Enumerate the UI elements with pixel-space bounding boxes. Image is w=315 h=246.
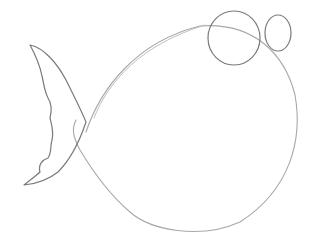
fish-sketch: [0, 0, 315, 246]
fish-body-outline-overlap: [94, 25, 205, 118]
sketch-canvas: Pencil sketch of a round fish: [0, 0, 315, 246]
tail-fin-outline: [24, 45, 86, 185]
eye-large-circle: [208, 11, 260, 65]
eye-small-circle: [265, 15, 291, 51]
fish-body-outline: [73, 26, 297, 232]
